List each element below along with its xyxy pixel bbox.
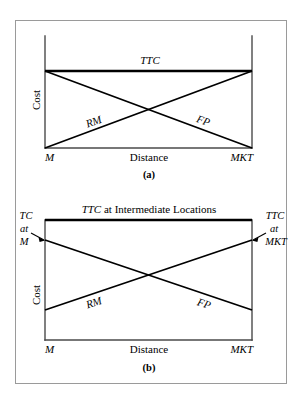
panel-b-y-axis-label: Cost — [30, 285, 42, 305]
panel-a-x-tick-left: M — [44, 151, 55, 163]
panel-a: Cost TTC RM FP M MKT Distance (a) — [0, 0, 302, 190]
panel-b-caption: (b) — [143, 362, 156, 374]
panel-b-x-axis-label: Distance — [130, 343, 169, 355]
panel-a-fp-label: FP — [194, 112, 212, 128]
panel-b-top-line-label-italic: TTC — [82, 203, 102, 215]
panel-b-left-callout-line2: at — [20, 223, 29, 234]
panel-a-chart: Cost TTC RM FP M MKT Distance (a) — [0, 0, 302, 190]
panel-b-left-callout-leader — [31, 233, 45, 242]
panel-b-x-tick-right: MKT — [229, 343, 254, 355]
panel-b: TC at M TTC at MKT TTC at Intermediate L… — [0, 190, 302, 398]
figure-root: Cost TTC RM FP M MKT Distance (a) — [0, 0, 302, 398]
panel-b-right-callout-leader — [252, 233, 266, 242]
panel-b-right-callout-line1: TTC — [266, 210, 286, 221]
panel-b-top-line-label: TTC at Intermediate Locations — [82, 203, 217, 215]
panel-b-fp-label: FP — [195, 295, 213, 311]
panel-a-x-axis-label: Distance — [130, 151, 169, 163]
panel-b-right-callout-line3: MKT — [264, 236, 288, 247]
panel-b-chart: TC at M TTC at MKT TTC at Intermediate L… — [0, 190, 302, 398]
panel-a-ttc-label: TTC — [140, 54, 160, 66]
panel-a-y-axis-label: Cost — [30, 90, 42, 110]
panel-b-left-callout-line3: M — [19, 236, 30, 247]
panel-a-x-tick-right: MKT — [229, 151, 254, 163]
panel-b-x-tick-left: M — [44, 343, 55, 355]
panel-b-top-line-label-rest: at Intermediate Locations — [101, 203, 216, 215]
panel-b-left-callout-line1: TC — [20, 210, 34, 221]
panel-a-caption: (a) — [143, 169, 156, 181]
panel-b-right-callout-line2: at — [270, 223, 279, 234]
